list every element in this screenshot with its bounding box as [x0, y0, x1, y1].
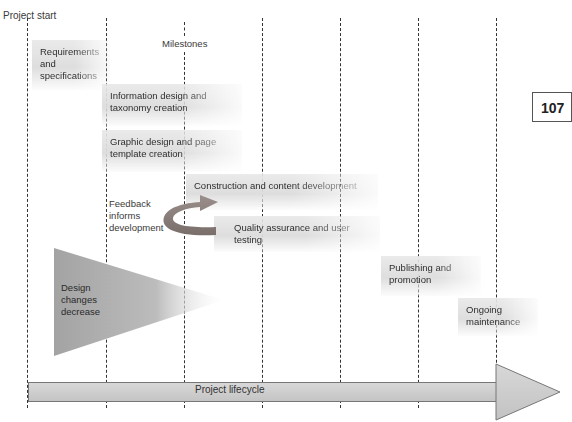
phase-text: promotion — [389, 274, 473, 286]
feedback-curved-arrow-icon — [158, 185, 224, 245]
project-start-label: Project start — [3, 10, 56, 22]
design-changes-text: Design — [61, 282, 100, 294]
phase-quality-assurance: Quality assurance and user testing — [214, 216, 380, 252]
milestone-line-4 — [262, 18, 263, 408]
milestone-line-5 — [340, 18, 341, 408]
feedback-label: Feedback informs development — [109, 198, 163, 234]
milestones-label: Milestones — [162, 38, 207, 50]
phase-text: Publishing and — [389, 262, 473, 274]
feedback-text: Feedback — [109, 198, 163, 210]
phase-text: Information design and — [110, 90, 234, 102]
feedback-text: informs — [109, 210, 163, 222]
lifecycle-arrow-head-icon — [494, 362, 562, 422]
phase-text: and — [40, 58, 102, 70]
design-changes-text: changes — [61, 294, 100, 306]
milestone-line-3a — [184, 22, 185, 36]
phase-ongoing-maintenance: Ongoing maintenance — [458, 298, 538, 336]
page-number: 107 — [532, 92, 572, 122]
phase-text: template creation — [110, 148, 234, 160]
project-lifecycle-label: Project lifecycle — [195, 384, 264, 395]
phase-text: taxonomy creation — [110, 102, 234, 114]
design-changes-label: Design changes decrease — [61, 282, 100, 318]
phase-text: Quality assurance and user testing — [222, 222, 372, 246]
phase-text: specifications — [40, 70, 102, 82]
phase-information-design: Information design and taxonomy creation — [102, 84, 242, 126]
phase-publishing: Publishing and promotion — [381, 256, 481, 296]
milestone-line-6 — [418, 18, 419, 408]
phase-text: maintenance — [466, 316, 530, 328]
phase-requirements: Requirements and specifications — [32, 40, 110, 90]
feedback-text: development — [109, 222, 163, 234]
phase-text: Graphic design and page — [110, 136, 234, 148]
phase-text: Ongoing — [466, 304, 530, 316]
milestone-line-1 — [27, 18, 28, 408]
milestone-line-7 — [496, 18, 497, 408]
design-changes-text: decrease — [61, 306, 100, 318]
phase-graphic-design: Graphic design and page template creatio… — [102, 130, 242, 172]
phase-text: Requirements — [40, 46, 102, 58]
